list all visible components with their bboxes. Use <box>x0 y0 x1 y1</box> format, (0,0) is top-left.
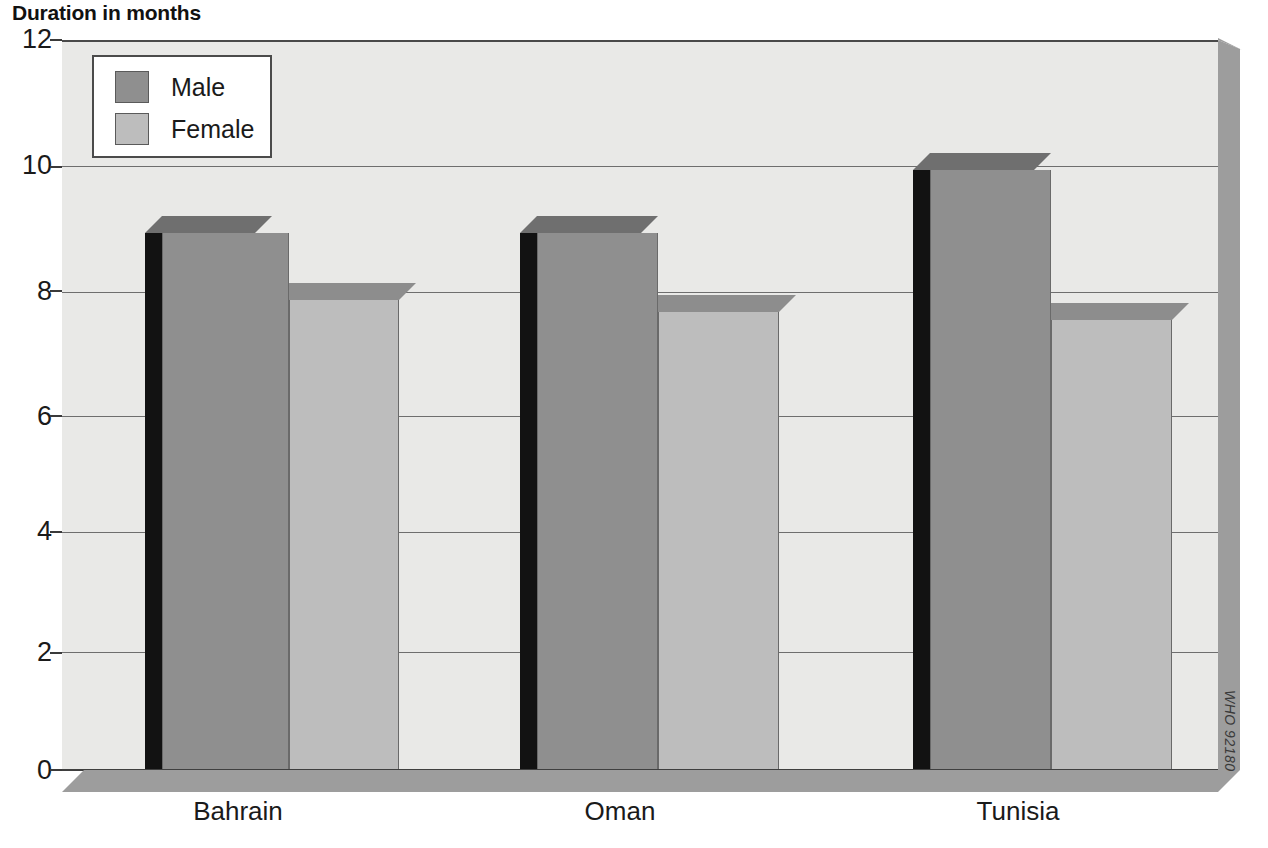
bar-front-face <box>658 312 779 770</box>
bar-front-face <box>1051 320 1172 770</box>
y-tick-mark <box>50 166 62 168</box>
y-tick-label: 8 <box>8 278 52 305</box>
legend-swatch-female-icon <box>115 113 149 145</box>
bar-front-face <box>537 233 658 770</box>
legend-item-female: Female <box>115 111 254 147</box>
x-axis-label-bahrain: Bahrain <box>118 796 358 827</box>
bar-oman-female <box>658 295 796 770</box>
bar-side-face <box>913 170 930 770</box>
plot-floor <box>62 770 1240 792</box>
legend-item-male: Male <box>115 69 225 105</box>
bar-top-face <box>145 216 289 233</box>
legend-swatch-male-icon <box>115 71 149 103</box>
bar-top-face <box>913 153 1068 170</box>
y-tick-label: 2 <box>8 639 52 666</box>
bar-bahrain-male <box>162 216 289 770</box>
legend-label: Female <box>171 117 254 142</box>
bar-bahrain-female <box>289 283 416 770</box>
y-tick-label: 6 <box>8 403 52 430</box>
bar-tunisia-female <box>1051 303 1189 770</box>
legend: Male Female <box>92 55 272 158</box>
bar-oman-male <box>537 216 675 770</box>
y-tick-label: 0 <box>8 757 52 784</box>
y-tick-label: 12 <box>8 26 52 53</box>
bar-top-face <box>520 216 675 233</box>
x-axis-label-tunisia: Tunisia <box>898 796 1138 827</box>
y-tick-label: 10 <box>8 152 52 179</box>
y-tick-mark <box>50 531 62 533</box>
plot-right-wall <box>1218 40 1240 770</box>
page-title: Duration in months <box>12 1 201 25</box>
bar-top-face <box>1051 303 1206 320</box>
y-tick-mark <box>50 39 62 41</box>
y-tick-mark <box>50 652 62 654</box>
chart-container: Duration in months 12 10 8 6 4 2 0 <box>0 0 1268 848</box>
bar-top-face <box>658 295 813 312</box>
bar-tunisia-male <box>930 153 1068 770</box>
bar-front-face <box>289 300 399 770</box>
y-tick-label: 4 <box>8 518 52 545</box>
legend-label: Male <box>171 75 225 100</box>
bar-front-face <box>162 233 289 770</box>
y-tick-mark <box>50 290 62 292</box>
y-tick-mark <box>50 769 62 771</box>
bar-front-face <box>930 170 1051 770</box>
bar-side-face <box>520 233 537 770</box>
x-axis-label-oman: Oman <box>500 796 740 827</box>
y-tick-mark <box>50 415 62 417</box>
source-credit: WHO 92180 <box>1222 690 1238 772</box>
bar-side-face <box>145 233 162 770</box>
bar-top-face <box>289 283 433 300</box>
